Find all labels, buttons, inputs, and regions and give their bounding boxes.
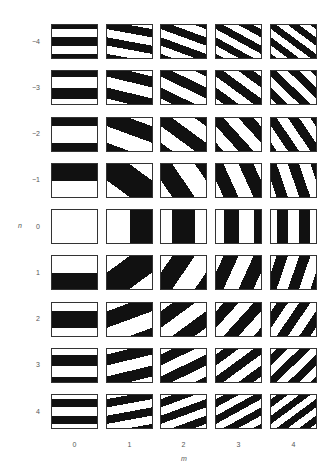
stripe-pattern-cell [270,255,317,290]
stripe-pattern-cell [106,209,153,244]
stripe-pattern-cell [215,348,262,383]
stripe-pattern-graphic [52,349,97,382]
stripe-pattern-cell [51,255,98,290]
row-label: 1 [26,269,40,277]
stripe-pattern-cell [160,348,207,383]
stripe-pattern-cell [51,24,98,59]
stripe-pattern-graphic [107,303,152,336]
stripe-pattern-graphic [161,303,206,336]
stripe-pattern-cell [215,70,262,105]
stripe-pattern-cell [215,255,262,290]
stripe-pattern-cell [51,70,98,105]
stripe-pattern-graphic [216,303,261,336]
stripe-pattern-graphic [52,256,97,289]
stripe-pattern-cell [160,209,207,244]
row-label: 2 [26,315,40,323]
row-label: 3 [26,361,40,369]
stripe-pattern-graphic [216,164,261,197]
stripe-pattern-graphic [271,303,316,336]
stripe-pattern-cell [106,255,153,290]
stripe-pattern-cell [51,302,98,337]
stripe-pattern-cell [51,348,98,383]
row-label: −3 [26,84,40,92]
stripe-pattern-cell [160,117,207,152]
column-label: 0 [68,441,82,449]
stripe-pattern-cell [270,302,317,337]
stripe-pattern-graphic [107,395,152,428]
stripe-pattern-cell [106,163,153,198]
stripe-pattern-graphic [271,395,316,428]
stripe-pattern-graphic [161,210,206,243]
row-label: −2 [26,130,40,138]
stripe-pattern-graphic [107,349,152,382]
stripe-pattern-graphic [216,210,261,243]
stripe-pattern-graphic [161,25,206,58]
stripe-pattern-graphic [52,395,97,428]
stripe-pattern-cell [51,117,98,152]
stripe-pattern-cell [106,302,153,337]
stripe-pattern-cell [270,117,317,152]
stripe-pattern-graphic [107,256,152,289]
stripe-pattern-graphic [52,25,97,58]
stripe-pattern-cell [215,163,262,198]
column-label: 2 [177,441,191,449]
stripe-pattern-cell [160,24,207,59]
stripe-pattern-graphic [52,118,97,151]
stripe-pattern-graphic [161,256,206,289]
row-label: −1 [26,176,40,184]
stripe-pattern-graphic [271,256,316,289]
stripe-pattern-cell [106,348,153,383]
stripe-pattern-cell [106,117,153,152]
stripe-pattern-graphic [216,25,261,58]
column-label: 3 [232,441,246,449]
stripe-pattern-graphic [271,118,316,151]
stripe-pattern-cell [51,163,98,198]
stripe-pattern-cell [160,70,207,105]
stripe-pattern-cell [270,209,317,244]
stripe-pattern-graphic [107,25,152,58]
stripe-pattern-graphic [161,71,206,104]
stripe-pattern-cell [215,117,262,152]
row-label: −4 [26,38,40,46]
stripe-pattern-cell [270,394,317,429]
stripe-pattern-graphic [107,118,152,151]
stripe-pattern-cell [215,302,262,337]
stripe-pattern-graphic [271,71,316,104]
stripe-pattern-graphic [52,303,97,336]
stripe-pattern-graphic [271,164,316,197]
stripe-pattern-graphic [161,164,206,197]
stripe-pattern-graphic [216,395,261,428]
stripe-pattern-cell [106,394,153,429]
row-label: 0 [26,223,40,231]
stripe-pattern-graphic [161,395,206,428]
stripe-pattern-grid-figure: n m −4−3−2−101234 01234 [0,0,335,475]
stripe-pattern-graphic [107,210,152,243]
stripe-pattern-cell [106,24,153,59]
stripe-pattern-graphic [161,349,206,382]
stripe-pattern-cell [160,302,207,337]
row-axis-label-n: n [15,222,25,230]
row-label: 4 [26,408,40,416]
stripe-pattern-graphic [52,210,97,243]
stripe-pattern-cell [215,24,262,59]
stripe-pattern-cell [270,70,317,105]
stripe-pattern-graphic [216,71,261,104]
column-label: 4 [287,441,301,449]
stripe-pattern-cell [270,348,317,383]
stripe-pattern-graphic [271,210,316,243]
stripe-pattern-graphic [107,164,152,197]
stripe-pattern-graphic [271,25,316,58]
stripe-pattern-graphic [161,118,206,151]
stripe-pattern-graphic [52,71,97,104]
stripe-pattern-cell [270,163,317,198]
stripe-pattern-cell [215,209,262,244]
stripe-pattern-graphic [216,256,261,289]
stripe-pattern-cell [215,394,262,429]
stripe-pattern-graphic [216,118,261,151]
column-label: 1 [123,441,137,449]
stripe-pattern-graphic [216,349,261,382]
stripe-pattern-cell [51,209,98,244]
stripe-pattern-graphic [271,349,316,382]
stripe-pattern-graphic [52,164,97,197]
col-axis-label-m: m [179,455,189,463]
